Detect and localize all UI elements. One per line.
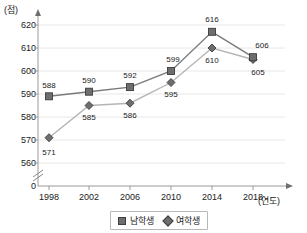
- male-point-label-2006: 592: [123, 71, 136, 80]
- male-point-label-2018: 606: [255, 41, 268, 50]
- male-point-label-2010: 599: [166, 55, 179, 64]
- x-axis-arrow-icon: [286, 183, 293, 189]
- y-axis-arrow-icon: [35, 9, 41, 16]
- square-marker-icon: [118, 217, 126, 225]
- legend-label-female: 여학생: [176, 214, 200, 227]
- female-point-label-2002: 585: [82, 113, 95, 122]
- male-series-line: [49, 32, 253, 97]
- male-point-label-2014: 616: [205, 15, 218, 24]
- male-point-label-1998: 588: [42, 81, 55, 90]
- female-point-label-2010: 595: [164, 90, 177, 99]
- line-chart: (점) (연도) 620 610 600 590 580 570 560 0 1…: [0, 0, 307, 233]
- x-axis-line: [38, 186, 288, 190]
- female-point-label-2018: 605: [251, 68, 264, 77]
- chart-legend: 남학생 여학생: [110, 211, 208, 230]
- diamond-marker-icon: [162, 215, 173, 226]
- legend-label-male: 남학생: [130, 214, 154, 227]
- male-point-label-2002: 590: [82, 76, 95, 85]
- female-point-label-2014: 610: [205, 56, 218, 65]
- legend-item-female[interactable]: 여학생: [164, 214, 200, 227]
- legend-item-male[interactable]: 남학생: [118, 214, 154, 227]
- female-point-label-1998: 571: [42, 148, 55, 157]
- y-axis-line: [34, 14, 38, 186]
- plot-area: [0, 0, 307, 233]
- female-point-label-2006: 586: [123, 111, 136, 120]
